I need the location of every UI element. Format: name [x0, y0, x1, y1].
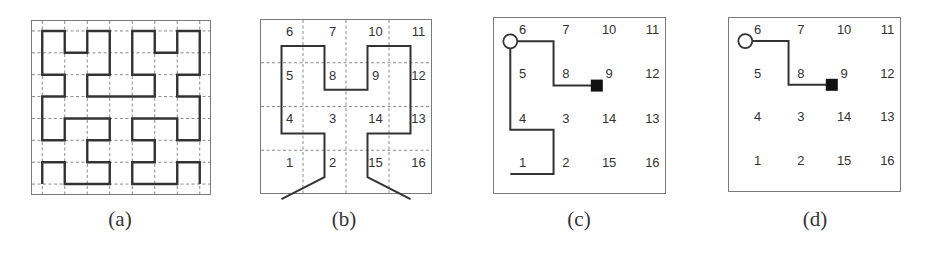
- cell-label-16: 16: [411, 155, 425, 170]
- cell-label-8: 8: [562, 66, 569, 81]
- cell-label-11: 11: [881, 22, 895, 37]
- cell-label-3: 3: [797, 109, 804, 124]
- cell-label-16: 16: [880, 153, 894, 168]
- start-circle-marker: [503, 34, 517, 48]
- cell-label-15: 15: [368, 155, 382, 170]
- cell-label-9: 9: [841, 66, 848, 81]
- end-square-marker: [591, 80, 603, 92]
- diagram-svg: 67101158912431413121516: [493, 17, 666, 194]
- cell-label-1: 1: [754, 153, 761, 168]
- cell-label-15: 15: [602, 155, 616, 170]
- cell-label-8: 8: [797, 66, 804, 81]
- cell-label-9: 9: [606, 66, 613, 81]
- cell-label-4: 4: [286, 111, 293, 126]
- cell-label-14: 14: [368, 111, 382, 126]
- cell-label-13: 13: [880, 109, 894, 124]
- cell-label-11: 11: [412, 24, 426, 39]
- cell-label-6: 6: [754, 22, 761, 37]
- cell-label-15: 15: [837, 153, 851, 168]
- cell-label-5: 5: [286, 68, 293, 83]
- cell-label-2: 2: [562, 155, 569, 170]
- cell-label-2: 2: [797, 153, 804, 168]
- cell-label-3: 3: [562, 111, 569, 126]
- cell-label-11: 11: [646, 22, 660, 37]
- diagram-svg: 67101158912431413121516: [728, 17, 901, 192]
- cell-label-13: 13: [411, 111, 425, 126]
- cell-label-5: 5: [519, 66, 526, 81]
- end-square-marker: [826, 79, 838, 91]
- caption-c: (c): [539, 207, 619, 232]
- cell-label-10: 10: [602, 22, 616, 37]
- cell-label-9: 9: [372, 68, 379, 83]
- cell-label-6: 6: [286, 24, 293, 39]
- caption-d: (d): [775, 207, 855, 232]
- panel-d-query-path: 67101158912431413121516: [728, 17, 901, 192]
- panel-c-partial-path: 67101158912431413121516: [493, 17, 666, 194]
- cell-label-14: 14: [837, 109, 851, 124]
- cell-label-4: 4: [754, 109, 761, 124]
- cell-label-16: 16: [645, 155, 659, 170]
- cell-label-10: 10: [368, 24, 382, 39]
- diagram-svg: 67101158912431413121516: [260, 19, 432, 194]
- curve-path: [42, 31, 200, 184]
- cell-label-7: 7: [797, 22, 804, 37]
- cell-label-8: 8: [329, 68, 336, 83]
- cell-label-1: 1: [519, 155, 526, 170]
- cell-label-13: 13: [645, 111, 659, 126]
- cell-label-6: 6: [519, 22, 526, 37]
- diagram-svg: [31, 20, 211, 195]
- cell-label-3: 3: [329, 111, 336, 126]
- caption-a: (a): [80, 207, 160, 232]
- cell-label-12: 12: [411, 68, 425, 83]
- cell-label-12: 12: [880, 66, 894, 81]
- cell-label-10: 10: [837, 22, 851, 37]
- cell-label-4: 4: [519, 111, 526, 126]
- panel-b-hilbert-order2-numbered: 67101158912431413121516: [260, 19, 432, 194]
- caption-b: (b): [304, 207, 384, 232]
- cell-label-1: 1: [286, 155, 293, 170]
- cell-label-12: 12: [645, 66, 659, 81]
- grid-lines: [32, 21, 210, 194]
- panel-a-hilbert-order3: [31, 20, 211, 195]
- cell-label-7: 7: [329, 24, 336, 39]
- cell-label-7: 7: [562, 22, 569, 37]
- cell-label-2: 2: [329, 155, 336, 170]
- cell-label-14: 14: [602, 111, 616, 126]
- cell-label-5: 5: [754, 66, 761, 81]
- start-circle-marker: [738, 34, 752, 48]
